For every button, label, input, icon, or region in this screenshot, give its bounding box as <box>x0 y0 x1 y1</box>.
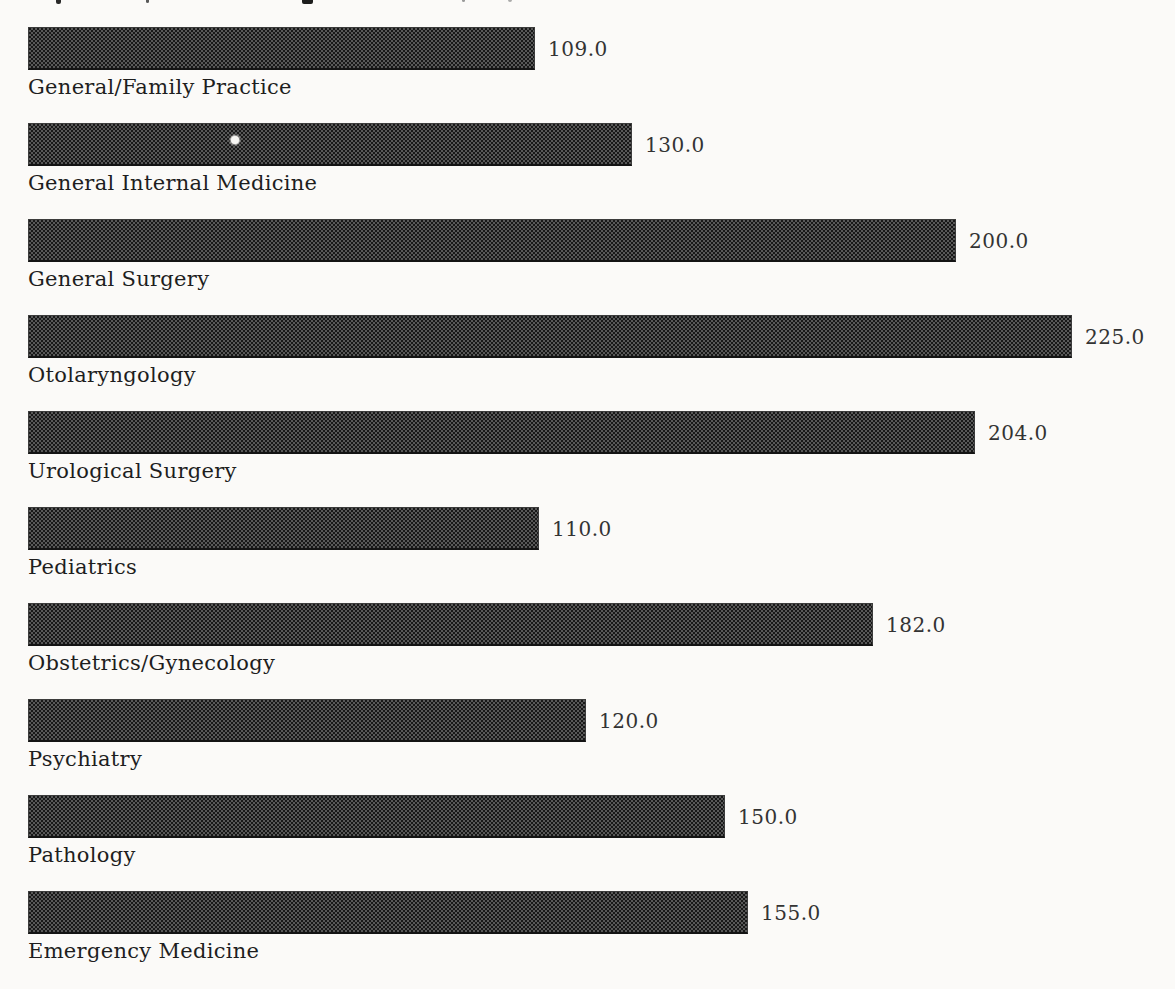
category-label-emergency-medicine: Emergency Medicine <box>28 939 259 963</box>
clipped-title-mark-4 <box>508 0 512 2</box>
value-label-psychiatry: 120.0 <box>599 709 659 733</box>
category-label-pediatrics: Pediatrics <box>28 555 137 579</box>
value-label-pathology: 150.0 <box>738 805 798 829</box>
bar-psychiatry <box>28 699 586 742</box>
bar-otolaryngology <box>28 315 1072 358</box>
clipped-title-mark-3 <box>462 0 465 2</box>
scan-artifact-dot <box>231 136 239 144</box>
category-label-psychiatry: Psychiatry <box>28 747 142 771</box>
bar-pathology <box>28 795 725 838</box>
value-label-otolaryngology: 225.0 <box>1085 325 1145 349</box>
clipped-title-mark-2 <box>302 0 313 4</box>
bar-general-internal-medicine <box>28 123 632 166</box>
bar-general-family-practice <box>28 27 535 70</box>
value-label-general-family-practice: 109.0 <box>548 37 608 61</box>
category-label-obstetrics-gynecology: Obstetrics/Gynecology <box>28 651 275 675</box>
bar-row-psychiatry: 120.0Psychiatry <box>0 699 1175 795</box>
category-label-general-internal-medicine: General Internal Medicine <box>28 171 317 195</box>
bar-row-general-surgery: 200.0General Surgery <box>0 219 1175 315</box>
bar-row-pediatrics: 110.0Pediatrics <box>0 507 1175 603</box>
bar-emergency-medicine <box>28 891 748 934</box>
category-label-general-surgery: General Surgery <box>28 267 209 291</box>
bar-row-urological-surgery: 204.0Urological Surgery <box>0 411 1175 507</box>
bar-row-emergency-medicine: 155.0Emergency Medicine <box>0 891 1175 987</box>
clipped-title-mark-0 <box>56 0 61 4</box>
value-label-urological-surgery: 204.0 <box>988 421 1048 445</box>
bar-row-general-family-practice: 109.0General/Family Practice <box>0 27 1175 123</box>
category-label-urological-surgery: Urological Surgery <box>28 459 237 483</box>
bar-chart-figure: 109.0General/Family Practice130.0General… <box>0 0 1175 989</box>
clipped-title-mark-1 <box>146 0 149 3</box>
category-label-pathology: Pathology <box>28 843 136 867</box>
category-label-general-family-practice: General/Family Practice <box>28 75 292 99</box>
value-label-pediatrics: 110.0 <box>552 517 612 541</box>
bar-pediatrics <box>28 507 539 550</box>
value-label-obstetrics-gynecology: 182.0 <box>886 613 946 637</box>
value-label-emergency-medicine: 155.0 <box>761 901 821 925</box>
bar-urological-surgery <box>28 411 975 454</box>
bar-obstetrics-gynecology <box>28 603 873 646</box>
value-label-general-surgery: 200.0 <box>969 229 1029 253</box>
bar-row-otolaryngology: 225.0Otolaryngology <box>0 315 1175 411</box>
value-label-general-internal-medicine: 130.0 <box>645 133 705 157</box>
category-label-otolaryngology: Otolaryngology <box>28 363 196 387</box>
bar-general-surgery <box>28 219 956 262</box>
bar-row-general-internal-medicine: 130.0General Internal Medicine <box>0 123 1175 219</box>
bar-row-pathology: 150.0Pathology <box>0 795 1175 891</box>
bar-row-obstetrics-gynecology: 182.0Obstetrics/Gynecology <box>0 603 1175 699</box>
